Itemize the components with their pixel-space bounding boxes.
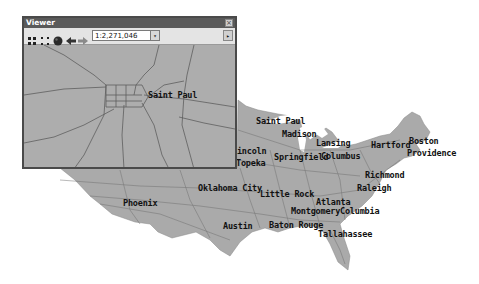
city-label-saint-paul[interactable]: Saint Paul	[256, 117, 305, 126]
viewer-window[interactable]: Viewer × 1:2,271,046 ▾ ▸	[22, 16, 237, 169]
city-label-baton-rouge[interactable]: Baton Rouge	[269, 221, 323, 230]
close-button[interactable]: ×	[225, 19, 233, 27]
scale-dropdown-button[interactable]: ▾	[150, 30, 160, 41]
globe-icon[interactable]	[53, 31, 63, 41]
viewer-road-network	[24, 45, 235, 167]
forward-arrow-icon[interactable]	[78, 31, 88, 41]
zoom-full-extent-icon[interactable]	[27, 31, 37, 41]
city-label-columbus[interactable]: Columbus	[321, 152, 360, 161]
city-label-boston[interactable]: Boston	[409, 137, 439, 146]
back-arrow-icon[interactable]	[66, 31, 76, 41]
city-label-montgomery[interactable]: Montgomery	[291, 207, 340, 216]
toolbar-overflow-button[interactable]: ▸	[223, 30, 233, 41]
city-label-providence[interactable]: Providence	[407, 149, 456, 158]
city-label-little-rock[interactable]: Little Rock	[260, 190, 314, 199]
city-label-hartford[interactable]: Hartford	[371, 141, 410, 150]
city-label-raleigh[interactable]: Raleigh	[357, 184, 391, 193]
viewer-toolbar: 1:2,271,046 ▾ ▸	[24, 28, 235, 45]
viewer-title: Viewer	[26, 18, 55, 28]
city-label-oklahoma-city[interactable]: Oklahoma City	[198, 184, 262, 193]
city-label-tallahassee[interactable]: Tallahassee	[318, 230, 372, 239]
city-label-topeka[interactable]: Topeka	[236, 159, 266, 168]
viewer-city-label-saint-paul[interactable]: Saint Paul	[148, 90, 197, 100]
city-label-madison[interactable]: Madison	[282, 130, 316, 139]
city-label-lansing[interactable]: Lansing	[316, 139, 350, 148]
city-label-austin[interactable]: Austin	[223, 222, 253, 231]
city-label-springfield[interactable]: Springfield	[274, 153, 328, 162]
zoom-to-layer-icon[interactable]	[40, 31, 50, 41]
city-label-richmond[interactable]: Richmond	[365, 171, 404, 180]
viewer-map[interactable]: Saint Paul	[24, 45, 235, 167]
city-label-lincoln[interactable]: Lincoln	[232, 147, 266, 156]
viewer-titlebar[interactable]: Viewer ×	[24, 18, 235, 28]
city-label-phoenix[interactable]: Phoenix	[123, 199, 157, 208]
city-label-columbia[interactable]: Columbia	[340, 207, 379, 216]
